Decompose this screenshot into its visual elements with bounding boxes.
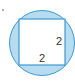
stray-dot [2,9,4,11]
bottom-side-label: 2 [39,52,45,64]
diagram-canvas: 2 2 [0,0,75,81]
right-side-label: 2 [56,35,62,47]
